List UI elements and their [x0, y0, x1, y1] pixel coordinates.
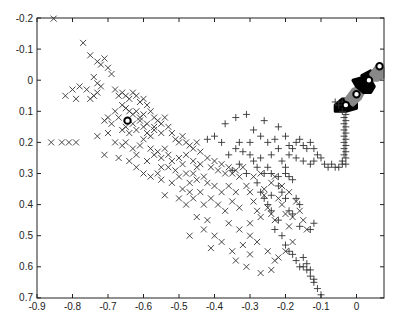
x-marker-point	[148, 108, 154, 114]
plus-marker-point	[257, 154, 264, 161]
x-marker-point	[258, 214, 264, 220]
x-marker-point	[126, 130, 132, 136]
plus-marker-point	[303, 145, 310, 152]
y-tick-label: 0.1	[19, 106, 33, 117]
x-marker-point	[247, 220, 253, 226]
x-marker-point	[141, 111, 147, 117]
plus-marker-point	[282, 195, 289, 202]
plus-marker-point	[335, 164, 342, 171]
x-marker-point	[70, 87, 76, 93]
x-marker-point	[247, 233, 253, 239]
x-marker-point	[112, 108, 118, 114]
x-marker-point	[194, 139, 200, 145]
x-marker-point	[101, 118, 107, 124]
scatter-chart: -0.9-0.8-0.7-0.6-0.5-0.4-0.3-0.2-0.10 -0…	[0, 0, 396, 327]
x-marker-point	[212, 158, 218, 164]
x-marker-point	[254, 208, 260, 214]
plus-marker-point	[307, 161, 314, 168]
x-marker-point	[190, 146, 196, 152]
x-marker-point	[51, 16, 57, 22]
plus-marker-point	[341, 145, 348, 152]
plus-marker-point	[250, 126, 257, 133]
plus-marker-point	[289, 176, 296, 183]
x-marker-point	[254, 239, 260, 245]
y-tick-label: 0.7	[19, 292, 33, 303]
x-marker-point	[208, 245, 214, 251]
x-tick-label: -0.1	[312, 301, 330, 312]
x-marker-point	[94, 133, 100, 139]
x-marker-point	[297, 208, 303, 214]
x-marker-point	[183, 171, 189, 177]
x-marker-point	[98, 62, 104, 68]
x-marker-point	[109, 71, 115, 77]
x-marker-point	[194, 214, 200, 220]
x-marker-point	[94, 90, 100, 96]
plus-marker-point	[289, 210, 296, 217]
plus-marker-point	[307, 273, 314, 280]
plus-marker-point	[341, 126, 348, 133]
x-marker-point	[219, 161, 225, 167]
plus-marker-point	[271, 136, 278, 143]
series-x-markers	[48, 16, 310, 276]
x-marker-point	[275, 254, 281, 260]
x-marker-point	[194, 177, 200, 183]
plus-marker-point	[293, 139, 300, 146]
x-marker-point	[290, 239, 296, 245]
plus-marker-point	[286, 248, 293, 255]
plus-marker-point	[222, 120, 229, 127]
plus-marker-point	[254, 164, 261, 171]
x-marker-point	[137, 118, 143, 124]
y-tick-label: 0.6	[19, 261, 33, 272]
x-marker-point	[109, 121, 115, 127]
x-marker-point	[212, 233, 218, 239]
x-marker-point	[226, 220, 232, 226]
plus-marker-point	[264, 201, 271, 208]
x-marker-point	[229, 248, 235, 254]
x-marker-point	[208, 195, 214, 201]
x-marker-point	[236, 226, 242, 232]
x-marker-point	[176, 155, 182, 161]
x-marker-point	[215, 202, 221, 208]
plus-marker-point	[341, 120, 348, 127]
plus-marker-point	[261, 117, 268, 124]
plus-marker-point	[341, 133, 348, 140]
x-marker-point	[116, 115, 122, 121]
plus-marker-point	[278, 232, 285, 239]
x-marker-point	[112, 139, 118, 145]
x-marker-point	[226, 164, 232, 170]
plus-marker-point	[296, 136, 303, 143]
x-marker-point	[222, 171, 228, 177]
plus-marker-point	[218, 139, 225, 146]
plus-marker-point	[236, 139, 243, 146]
x-marker-point	[300, 217, 306, 223]
plus-marker-point	[321, 161, 328, 168]
x-marker-point	[197, 161, 203, 167]
y-tick-label: -0.2	[16, 13, 34, 24]
x-marker-point	[165, 124, 171, 130]
plus-marker-point	[264, 139, 271, 146]
x-marker-point	[176, 139, 182, 145]
x-marker-point	[84, 87, 90, 93]
plus-marker-point	[275, 145, 282, 152]
x-marker-point	[261, 186, 267, 192]
x-marker-point	[204, 217, 210, 223]
x-marker-point	[258, 270, 264, 276]
x-marker-point	[162, 146, 168, 152]
x-marker-point	[219, 239, 225, 245]
highlight-circle	[124, 117, 130, 123]
highlight-circle	[376, 63, 382, 69]
x-marker-point	[187, 189, 193, 195]
highlight-circle	[343, 102, 349, 108]
x-marker-point	[180, 133, 186, 139]
plus-marker-point	[328, 161, 335, 168]
x-marker-point	[101, 152, 107, 158]
plus-marker-point	[342, 142, 349, 149]
x-marker-point	[141, 171, 147, 177]
plus-marker-point	[314, 285, 321, 292]
x-marker-point	[197, 149, 203, 155]
plus-marker-point	[282, 164, 289, 171]
x-marker-point	[172, 167, 178, 173]
x-marker-point	[158, 177, 164, 183]
x-marker-point	[169, 130, 175, 136]
x-marker-point	[62, 93, 68, 99]
